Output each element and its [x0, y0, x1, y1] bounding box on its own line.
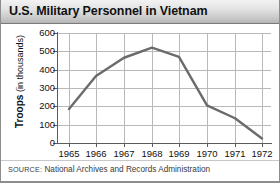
title-bar: U.S. Military Personnel in Vietnam [1, 0, 280, 24]
source-note: SOURCE: National Archives and Records Ad… [8, 165, 210, 174]
source-value: National Archives and Records Administra… [42, 165, 210, 174]
data-series-svg [1, 24, 280, 160]
page-title: U.S. Military Personnel in Vietnam [9, 4, 208, 18]
chart-area: Troops (in thousands) [1, 24, 280, 160]
source-bar: SOURCE: National Archives and Records Ad… [1, 160, 280, 183]
chart-figure: U.S. Military Personnel in Vietnam Troop… [0, 0, 280, 183]
data-line-troops [69, 48, 262, 139]
source-label: SOURCE: [8, 165, 42, 174]
bottom-rule [1, 181, 280, 183]
